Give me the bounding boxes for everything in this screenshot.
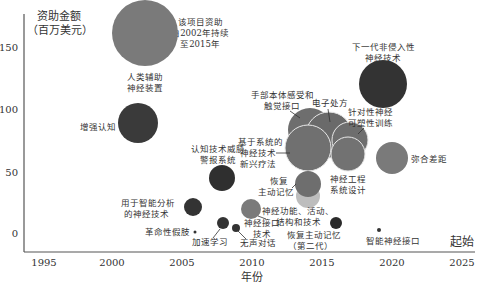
label: （第二代） [288, 241, 333, 251]
label: 神经技术 [365, 53, 401, 63]
label: 恢复主动记忆 [287, 230, 341, 240]
label: 电子处方 [312, 98, 348, 108]
bubble-threat-warning [209, 165, 235, 191]
y-tick: 150 [0, 42, 18, 53]
label: 结构和技术 [276, 217, 321, 227]
bubble-neural-engineering [331, 137, 365, 171]
x-tick: 2015 [309, 257, 334, 268]
annotation: 由2002年持续 [171, 28, 229, 38]
label: 人类辅助 [127, 72, 163, 82]
label: 可塑性训练 [348, 118, 393, 128]
bubble-human-assisted [112, 0, 178, 66]
label: 的神经技术 [124, 209, 169, 219]
x-axis-title: 年份 [241, 270, 263, 284]
y-axis-title: 资助金额 [37, 9, 81, 23]
label: 无声对话 [240, 238, 276, 248]
label: 神经功能、活动、 [262, 206, 334, 216]
label: 新兴疗法 [240, 159, 276, 169]
label: 针对性神经 [348, 107, 393, 117]
x-axis-end-label: 起始 [450, 235, 474, 249]
y-tick: 100 [0, 104, 18, 115]
label: 触觉接口 [264, 101, 300, 111]
bubble-augmented-cognition [118, 103, 158, 143]
label: 系统设计 [330, 185, 366, 195]
label: 革命性假肢 [145, 227, 190, 237]
bubble-bridging-gap [376, 142, 408, 174]
label: 神经装置 [127, 83, 163, 93]
bubble-next-gen-noninvasive [359, 60, 407, 108]
bubble-intelligent-neural-interfaces [377, 228, 381, 232]
bubble-systems-based-therapy [285, 125, 331, 171]
x-tick: 2000 [99, 257, 124, 268]
bubble-ram-2nd-gen [330, 217, 342, 229]
x-tick: 2025 [449, 257, 474, 268]
x-tick: 2005 [169, 257, 194, 268]
label: 用于智能分析 [121, 198, 175, 208]
bubble-chart: 资助金额 （百万美元） 150 100 50 0 1995 2000 2005 … [0, 0, 483, 284]
label: 增强认知 [80, 122, 116, 132]
label: 弥合差距 [411, 154, 447, 164]
label: 智能神经接口 [366, 236, 420, 246]
y-axis-title-unit: （百万美元） [27, 24, 93, 37]
label: 下一代非侵入性 [352, 42, 415, 52]
label: 神经技术 [240, 148, 276, 158]
label: 加速学习 [192, 237, 228, 247]
annotation: 该项目资助 [178, 17, 223, 27]
x-tick: 2020 [379, 257, 404, 268]
label: 恢复 [270, 176, 288, 186]
label: 警报系统 [200, 155, 236, 165]
x-tick: 2010 [239, 257, 264, 268]
y-tick: 0 [12, 228, 18, 239]
bubble-intel-analysis [184, 198, 202, 216]
bubble-restoring-active-memory [295, 171, 321, 197]
label: 主动记忆 [258, 187, 294, 197]
annotation: 至2015年 [180, 39, 220, 49]
x-tick: 1995 [31, 257, 56, 268]
label: 手部本体感受和 [251, 90, 314, 100]
y-tick: 50 [5, 167, 18, 178]
bubble-silent-talk [232, 224, 240, 232]
bubble-accelerated-learning [217, 217, 229, 229]
bubble-revolutionizing-prosthetics [194, 231, 197, 234]
label: 神经工程 [330, 174, 366, 184]
label: 认知技术威胁 [191, 144, 245, 154]
